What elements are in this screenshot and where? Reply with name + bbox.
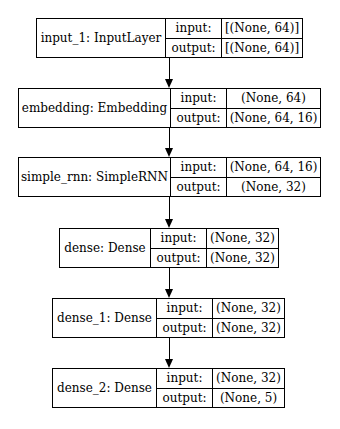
input-label: input:: [171, 89, 226, 109]
node-embedding: embedding: Embedding input: output: (Non…: [18, 88, 321, 128]
input-label: input:: [157, 299, 212, 319]
node-dense-2: dense_2: Dense input: output: (None, 32)…: [52, 368, 285, 408]
input-shape: (None, 32): [213, 299, 284, 319]
arrow-down-icon: [165, 148, 173, 157]
edge-line: [169, 196, 170, 219]
output-shape: (None, 64, 16): [227, 109, 320, 128]
output-shape: (None, 32): [227, 178, 320, 197]
output-shape: (None, 5): [213, 389, 284, 408]
node-name: embedding: Embedding: [19, 89, 171, 127]
node-name: dense: Dense: [60, 229, 151, 267]
arrow-down-icon: [165, 289, 173, 298]
output-shape: [(None, 64)]: [222, 39, 302, 58]
arrow-down-icon: [165, 359, 173, 368]
node-name: dense_2: Dense: [53, 369, 157, 407]
input-label: input:: [166, 19, 221, 39]
output-shape: (None, 32): [207, 249, 278, 268]
input-label: input:: [157, 369, 212, 389]
output-label: output:: [171, 109, 226, 128]
input-shape: (None, 32): [213, 369, 284, 389]
output-label: output:: [171, 178, 226, 197]
node-name: dense_1: Dense: [53, 299, 157, 337]
node-dense-1: dense_1: Dense input: output: (None, 32)…: [52, 298, 285, 338]
edge-line: [169, 337, 170, 359]
node-name: simple_rnn: SimpleRNN: [19, 158, 171, 196]
output-label: output:: [157, 319, 212, 338]
input-shape: (None, 64, 16): [227, 158, 320, 178]
node-name: input_1: InputLayer: [37, 19, 166, 57]
input-label: input:: [151, 229, 206, 249]
input-shape: (None, 32): [207, 229, 278, 249]
output-label: output:: [157, 389, 212, 408]
node-input-1: input_1: InputLayer input: output: [(Non…: [36, 18, 303, 58]
arrow-down-icon: [165, 79, 173, 88]
edge-line: [169, 57, 170, 79]
node-dense: dense: Dense input: output: (None, 32) (…: [59, 228, 279, 268]
edge-line: [169, 267, 170, 289]
input-label: input:: [171, 158, 226, 178]
edge-line: [169, 127, 170, 148]
input-shape: (None, 64): [227, 89, 320, 109]
output-label: output:: [151, 249, 206, 268]
output-shape: (None, 32): [213, 319, 284, 338]
node-simple-rnn: simple_rnn: SimpleRNN input: output: (No…: [18, 157, 321, 197]
output-label: output:: [166, 39, 221, 58]
arrow-down-icon: [165, 219, 173, 228]
input-shape: [(None, 64)]: [222, 19, 302, 39]
